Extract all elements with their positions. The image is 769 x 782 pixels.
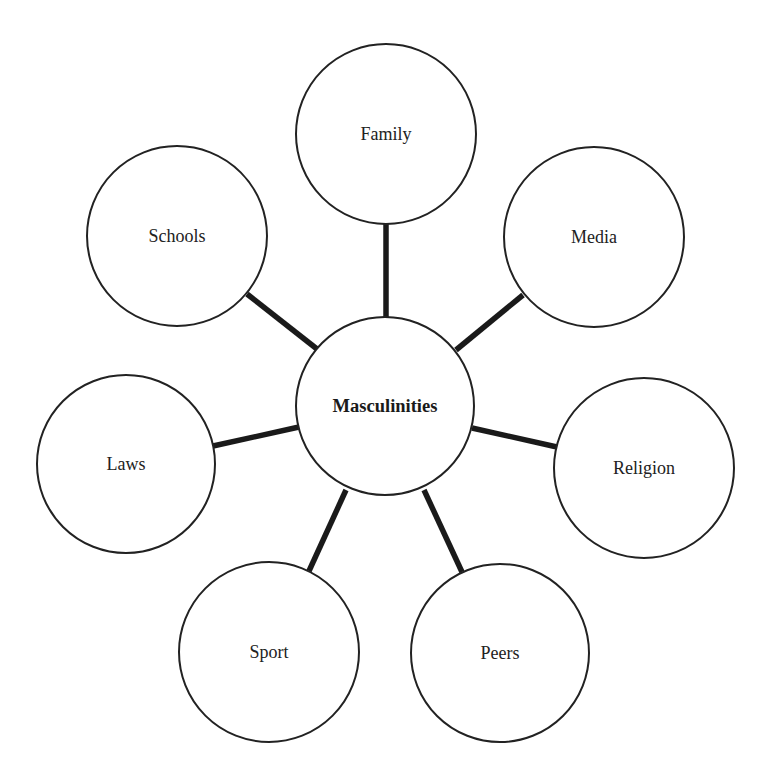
node-media: Media bbox=[571, 227, 617, 248]
connector-religion bbox=[472, 428, 557, 447]
center-node-masculinities: Masculinities bbox=[333, 396, 438, 417]
node-family: Family bbox=[360, 124, 411, 145]
node-peers: Peers bbox=[481, 643, 520, 664]
node-circles bbox=[37, 44, 734, 742]
connector-peers bbox=[424, 490, 462, 572]
connector-laws bbox=[213, 427, 299, 446]
connector-media bbox=[456, 295, 523, 350]
diagram-canvas bbox=[0, 0, 769, 782]
node-laws: Laws bbox=[107, 454, 146, 475]
node-schools: Schools bbox=[148, 226, 205, 247]
node-religion: Religion bbox=[613, 458, 675, 479]
connector-schools bbox=[247, 294, 317, 349]
node-sport: Sport bbox=[249, 642, 288, 663]
connector-sport bbox=[309, 490, 346, 571]
masculinities-diagram: Masculinities Family Media Religion Peer… bbox=[0, 0, 769, 782]
